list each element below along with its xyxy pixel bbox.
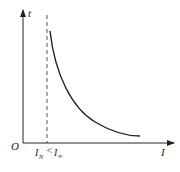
- origin-label: O: [11, 140, 19, 152]
- svg-text:<: <: [46, 145, 53, 156]
- y-axis-label: t: [28, 7, 32, 19]
- threshold-label: I N < I ∞: [34, 145, 63, 160]
- time-current-chart: t O I I N < I ∞: [0, 0, 180, 172]
- characteristic-curve: [50, 31, 140, 136]
- svg-text:∞: ∞: [58, 153, 63, 159]
- svg-text:N: N: [38, 154, 44, 160]
- x-axis-label: I: [160, 146, 166, 158]
